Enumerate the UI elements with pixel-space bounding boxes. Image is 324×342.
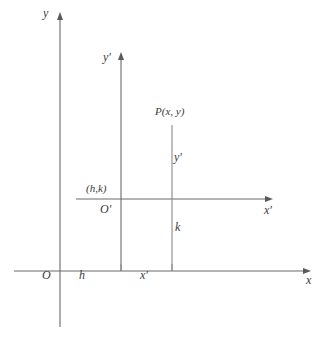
h-distance-label: h bbox=[79, 269, 85, 281]
x-prime-axis-arrowhead bbox=[265, 196, 273, 202]
y-axis-arrowhead bbox=[57, 12, 63, 20]
origin-prime-label: O′ bbox=[100, 203, 111, 215]
x-prime-axis-label: x′ bbox=[264, 204, 272, 216]
x-prime-distance-label: x′ bbox=[140, 269, 148, 281]
point-p-label: P(x, y) bbox=[155, 106, 184, 117]
y-prime-axis-label: y′ bbox=[103, 51, 111, 63]
diagram-canvas bbox=[0, 0, 324, 342]
k-distance-label: k bbox=[175, 221, 180, 233]
x-axis-label: x bbox=[306, 274, 311, 286]
translation-of-axes-figure: y x O y′ x′ (h,k) O′ P(x, y) y′ k h x′ bbox=[0, 0, 324, 342]
y-prime-axis-arrowhead bbox=[118, 52, 124, 60]
origin-label: O bbox=[42, 269, 51, 281]
y-prime-distance-label: y′ bbox=[174, 151, 182, 163]
origin-prime-coords-label: (h,k) bbox=[86, 183, 106, 194]
y-axis-label: y bbox=[43, 7, 48, 19]
